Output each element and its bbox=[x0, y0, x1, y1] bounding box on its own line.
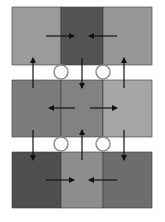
flow-diagram bbox=[0, 0, 165, 222]
row-2 bbox=[12, 80, 152, 137]
circle-bottom-right-icon bbox=[96, 137, 110, 151]
circle-top-right-icon bbox=[96, 65, 110, 79]
row-3 bbox=[12, 152, 152, 208]
row-1 bbox=[12, 7, 152, 65]
circle-bottom-left-icon bbox=[54, 137, 68, 151]
circle-top-left-icon bbox=[54, 65, 68, 79]
cells-layer bbox=[12, 7, 152, 208]
